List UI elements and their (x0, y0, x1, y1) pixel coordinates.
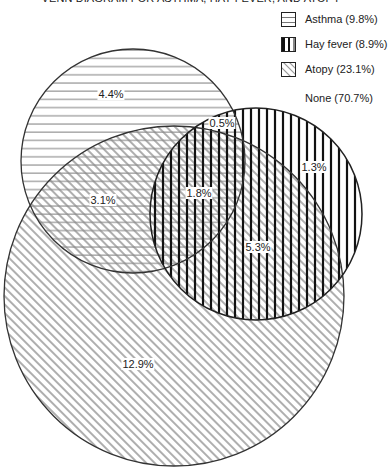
legend-item-asthma: Asthma (9.8%) (281, 12, 391, 29)
legend-label-atopy: Atopy (23.1%) (305, 63, 375, 75)
hay-fever-circle (150, 108, 362, 320)
label-hayfever-only: 1.3% (300, 161, 327, 173)
vertical-lines-swatch-icon (281, 37, 296, 52)
label-asthma-atopy: 3.1% (89, 194, 116, 206)
legend-item-atopy: Atopy (23.1%) (281, 62, 391, 79)
legend-label-none: None (70.7%) (305, 92, 373, 104)
label-all-three: 1.8% (185, 187, 212, 199)
label-atopy-only: 12.9% (121, 358, 154, 370)
label-asthma-hayfever: 0.5% (208, 117, 235, 129)
label-hayfever-atopy: 5.3% (244, 241, 271, 253)
diagonal-lines-swatch-icon (281, 62, 296, 77)
legend-label-asthma: Asthma (9.8%) (305, 13, 378, 25)
horizontal-lines-swatch-icon (281, 12, 296, 27)
label-asthma-only: 4.4% (97, 88, 124, 100)
legend-item-hay-fever: Hay fever (8.9%) (281, 37, 391, 54)
legend-label-hay-fever: Hay fever (8.9%) (305, 38, 388, 50)
